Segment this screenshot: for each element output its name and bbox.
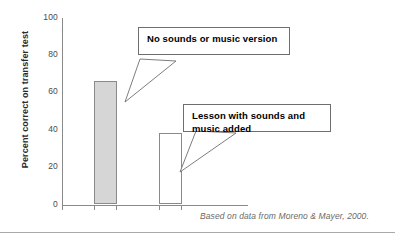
x-tick-mark: [181, 205, 182, 210]
bar-no-sounds: [94, 81, 117, 204]
x-axis-line: [62, 205, 248, 206]
y-axis-title: Percent correct on transfer test: [21, 20, 30, 180]
x-tick-mark: [116, 205, 117, 210]
y-tick-20: 20: [30, 162, 58, 172]
callout-with-sounds: Lesson with sounds and music added: [183, 104, 331, 132]
y-tick-40: 40: [30, 125, 58, 135]
y-tick-label-0: 0: [53, 200, 58, 209]
y-tick-label-40: 40: [48, 125, 58, 134]
x-tick-mark: [62, 205, 63, 210]
callout-tail-with-sounds: [168, 128, 283, 184]
callout-with-sounds-line1: Lesson with sounds and: [192, 110, 322, 123]
y-tick-100: 100: [30, 13, 58, 23]
x-tick-mark: [159, 205, 160, 210]
x-tick-mark: [94, 205, 95, 210]
chart-figure: Percent correct on transfer test 100 80 …: [0, 0, 395, 241]
callout-no-sounds-text: No sounds or music version: [147, 33, 277, 44]
y-tick-60: 60: [30, 87, 58, 97]
callout-with-sounds-line2: music added: [192, 123, 322, 136]
y-tick-label-60: 60: [48, 87, 58, 96]
source-note: Based on data from Moreno & Mayer, 2000.: [200, 211, 369, 221]
y-tick-80: 80: [30, 50, 58, 60]
callout-no-sounds: No sounds or music version: [138, 27, 290, 55]
bottom-divider: [0, 232, 395, 233]
y-tick-label-80: 80: [48, 50, 58, 59]
y-tick-label-100: 100: [43, 13, 58, 22]
y-tick-0: 0: [30, 200, 58, 210]
y-tick-label-20: 20: [48, 162, 58, 171]
